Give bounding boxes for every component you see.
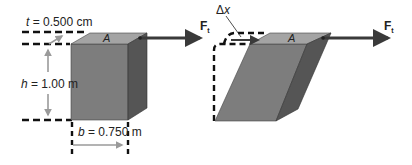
thickness-label: t = 0.500 cm <box>26 15 92 29</box>
displacement-label: Δx <box>216 3 231 17</box>
left-figure-undeformed-block: t = 0.500 cm h = 1.00 m b = 0.750 m A Ft <box>21 15 210 157</box>
right-figure-sheared-block: Δx A Ft <box>214 3 394 121</box>
area-label-right: A <box>287 32 295 44</box>
shear-stress-diagram: t = 0.500 cm h = 1.00 m b = 0.750 m A Ft… <box>0 0 412 165</box>
height-label: h = 1.00 m <box>21 77 78 91</box>
base-label: b = 0.750 m <box>78 125 142 139</box>
force-label-right: Ft <box>384 19 394 34</box>
front-face <box>71 44 128 120</box>
force-label-left: Ft <box>200 19 210 34</box>
side-face <box>128 33 147 120</box>
area-label-left: A <box>102 32 110 44</box>
